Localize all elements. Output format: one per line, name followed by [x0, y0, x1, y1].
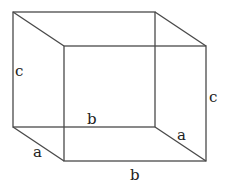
label-a-left: a	[33, 143, 42, 161]
label-b-back: b	[87, 110, 97, 128]
label-a-right: a	[177, 126, 186, 144]
label-b-front: b	[130, 166, 140, 184]
label-c-left: c	[15, 62, 23, 80]
label-c-right: c	[209, 88, 217, 106]
box-diagram: c c b b a a	[0, 0, 225, 188]
depth-edge-top-right	[155, 12, 206, 46]
back-face	[13, 12, 155, 127]
depth-edge-top-left	[13, 12, 64, 46]
